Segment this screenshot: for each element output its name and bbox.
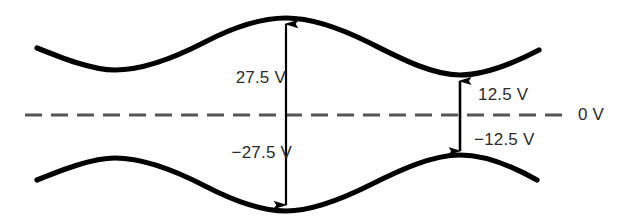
zero-level-label: 0 V: [578, 105, 604, 125]
right-negative-label: −12.5 V: [474, 130, 534, 150]
right-positive-label: 12.5 V: [478, 85, 528, 105]
envelope-plot-canvas: [0, 0, 630, 224]
am-envelope-diagram: 27.5 V −27.5 V 12.5 V −12.5 V 0 V: [0, 0, 630, 224]
upper-envelope-curve: [37, 18, 539, 75]
lower-trough-label: −27.5 V: [232, 143, 292, 163]
upper-peak-label: 27.5 V: [236, 68, 286, 88]
